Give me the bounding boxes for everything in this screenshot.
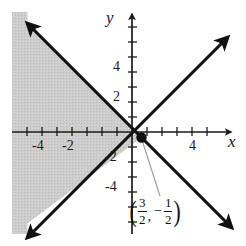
x-denominator: 2 xyxy=(138,213,147,226)
y-numerator: 1 xyxy=(164,196,173,209)
x-tick-label: -2 xyxy=(62,138,74,154)
coordinate-plane xyxy=(0,0,246,246)
x-axis-label: x xyxy=(228,132,236,152)
shaded-solution-region xyxy=(12,12,142,234)
x-coordinate-fraction: 3 2 xyxy=(138,196,147,226)
y-tick-label: 2 xyxy=(113,89,120,105)
x-numerator: 3 xyxy=(138,196,147,209)
graph-figure: y x -4 -2 4 4 2 -2 -4 ( 3 2 , − 1 2 ) xyxy=(0,0,246,246)
y-tick-label: -2 xyxy=(105,149,117,165)
close-paren: ) xyxy=(174,196,181,226)
y-tick-label: 4 xyxy=(113,59,120,75)
y-coordinate-fraction: 1 2 xyxy=(164,196,173,226)
y-axis-label: y xyxy=(106,8,114,28)
x-tick-label: -4 xyxy=(32,138,44,154)
x-tick-label: 4 xyxy=(189,138,196,154)
open-paren: ( xyxy=(129,196,136,226)
intersection-point-label: ( 3 2 , − 1 2 ) xyxy=(128,196,182,226)
intersection-point-dot xyxy=(136,132,146,142)
minus-sign: − xyxy=(153,203,164,219)
y-denominator: 2 xyxy=(164,213,173,226)
y-tick-label: -4 xyxy=(105,179,117,195)
